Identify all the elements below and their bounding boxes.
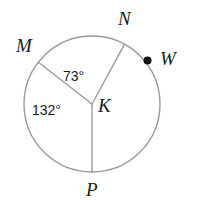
point-label-m: M [16, 36, 32, 55]
point-label-n: N [118, 9, 131, 28]
point-label-k: K [98, 96, 111, 115]
angle-label-mkn: 73° [63, 69, 84, 83]
angle-label-mkp: 132° [32, 103, 61, 117]
point-label-p: P [86, 180, 98, 199]
point-marker-w [144, 57, 152, 65]
point-label-w: W [160, 49, 176, 68]
